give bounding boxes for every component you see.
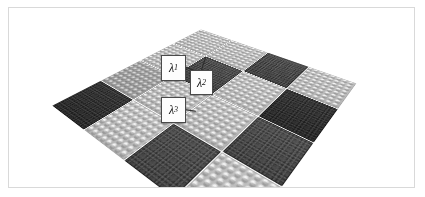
callout-lambda-2: λ2 [190, 70, 213, 95]
tile-dark-r1-c3 [258, 88, 337, 141]
tile-light-r3-c1 [84, 100, 172, 160]
tile-dark-r3-c2 [123, 123, 220, 188]
callout-lambda-1: λ1 [161, 55, 186, 81]
tile-array-scene [9, 8, 414, 187]
lambda-1-subscript: 1 [174, 64, 178, 72]
callout-lambda-3: λ3 [161, 97, 186, 123]
tile-dark-r2-c3 [222, 116, 313, 186]
tile-light-r3-c3 [173, 151, 281, 188]
figure-frame: λ1 λ2 λ3 [8, 7, 415, 188]
lambda-3-subscript: 3 [174, 106, 178, 114]
lambda-2-subscript: 2 [202, 79, 206, 87]
tile-light-r2-c2 [173, 94, 256, 150]
tile-grid [52, 29, 356, 188]
tile-board [52, 29, 356, 188]
